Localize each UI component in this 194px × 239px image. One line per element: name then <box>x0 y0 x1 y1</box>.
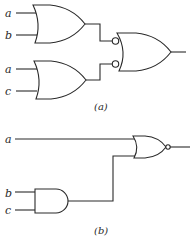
nor-gate <box>133 136 166 158</box>
wire-and-to-nor <box>68 156 136 201</box>
nor-output-bubble <box>166 145 170 149</box>
wire-or2-to-or3 <box>86 64 112 80</box>
or-gate-1 <box>33 5 85 43</box>
input-label-a: a <box>5 133 12 146</box>
or-gate-3 <box>117 33 171 71</box>
input-label-a1: a <box>5 7 12 20</box>
input-label-b: b <box>5 29 12 42</box>
input-label-b: b <box>5 187 12 200</box>
input-label-c: c <box>5 204 11 217</box>
caption-a: (a) <box>94 101 108 112</box>
or-gate-2 <box>34 61 86 99</box>
wire-or1-to-or3 <box>85 24 112 41</box>
logic-circuits-figure: a b a c (a) a b c <box>0 0 194 239</box>
input-label-a2: a <box>5 63 12 76</box>
inverter-bubble-2 <box>112 61 118 67</box>
input-label-c: c <box>5 85 11 98</box>
inverter-bubble-1 <box>112 38 118 44</box>
caption-b: (b) <box>94 225 108 236</box>
circuit-a: a b a c (a) <box>5 5 186 112</box>
and-gate <box>35 189 68 213</box>
circuit-b: a b c (b) <box>5 133 190 236</box>
